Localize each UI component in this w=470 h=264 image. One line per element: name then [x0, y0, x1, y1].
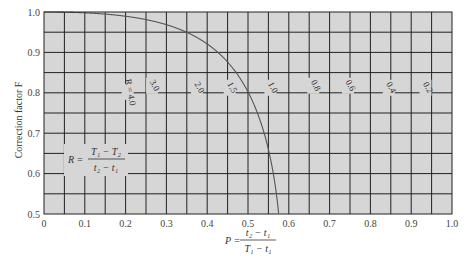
- x-tick-label: 0.6: [283, 218, 296, 229]
- svg-text:P =: P =: [224, 235, 240, 246]
- y-tick-label: 0.9: [28, 47, 41, 58]
- y-axis-label: Correction factor F: [13, 81, 24, 158]
- svg-text:t₂ − t₁: t₂ − t₁: [94, 162, 118, 173]
- svg-text:T₁ − t₁: T₁ − t₁: [244, 243, 271, 254]
- x-tick-label: 0.3: [160, 218, 173, 229]
- svg-text:T₁ − T₂: T₁ − T₂: [91, 146, 121, 157]
- correction-factor-chart: R = 4.03.02.01.51.00.80.60.40.2 00.10.20…: [0, 0, 470, 264]
- p-definition: P = t₂ − t₁ T₁ − t₁: [224, 227, 276, 254]
- x-tick-label: 0.9: [405, 218, 418, 229]
- y-axis-ticks: 0.50.60.70.80.91.0: [28, 7, 41, 220]
- y-tick-label: 0.6: [28, 168, 41, 179]
- svg-text:t₂ − t₁: t₂ − t₁: [246, 227, 270, 238]
- r-definition: R = T₁ − T₂ t₂ − t₁: [64, 144, 128, 176]
- y-tick-label: 0.8: [28, 87, 41, 98]
- y-tick-label: 0.5: [28, 209, 41, 220]
- x-tick-label: 0.2: [119, 218, 132, 229]
- x-tick-label: 0.7: [323, 218, 336, 229]
- x-tick-label: 0.8: [364, 218, 377, 229]
- grid: [44, 12, 452, 214]
- y-tick-label: 1.0: [28, 7, 41, 18]
- x-tick-label: 0.1: [79, 218, 92, 229]
- x-tick-label: 1.0: [446, 218, 459, 229]
- y-tick-label: 0.7: [28, 128, 41, 139]
- x-tick-label: 0.4: [201, 218, 214, 229]
- x-tick-label: 0: [42, 218, 47, 229]
- svg-text:R =: R =: [67, 154, 83, 165]
